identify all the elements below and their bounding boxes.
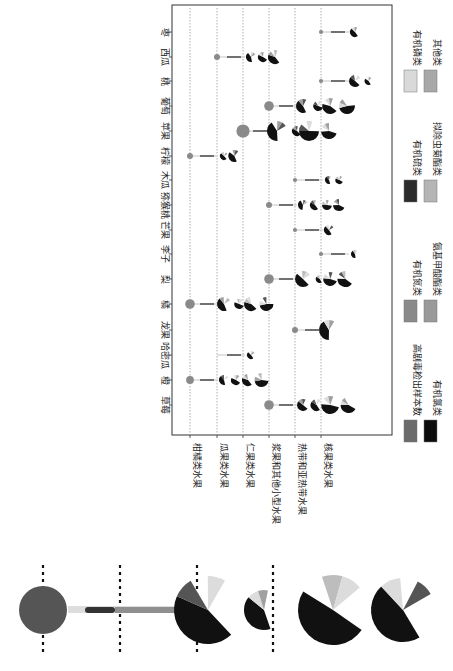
fruit-label: 葡萄 [160,97,171,115]
fruit-label: 梨 [160,275,171,284]
pie-marker [219,375,228,385]
fruit-label: 芒果 [160,221,171,239]
data-row [292,320,334,340]
pie-slice [224,298,230,304]
sample-count-dot [266,202,272,208]
legend-item: 其他类 [424,39,443,92]
data-row [214,50,279,64]
fruit-label: 猕猴桃 [160,192,171,219]
sample-count-dot [319,30,323,34]
category-label: 浆果和其他小型水果 [271,443,282,524]
chart-canvas: 柑橘类水果瓜果类水果仁果类水果浆果和其他小型水果热带和亚热带水果核果类水果草莓橙… [0,0,453,671]
legend-swatch [404,180,417,202]
pie-slice [313,104,323,111]
pie-marker [246,52,255,62]
pie-marker [231,375,240,385]
pie-slice [298,201,303,210]
inset-stem-grey [115,607,175,613]
legend-item: 拟除虫菊酯类 [424,122,443,202]
pie-marker [299,121,319,141]
pie-slice [224,376,228,380]
data-row [319,75,371,87]
data-row [187,150,238,162]
pie-slice [321,404,339,414]
fruit-label: 橘 [160,300,170,309]
category-label: 核果类水果 [323,443,334,488]
pie-marker [247,351,254,359]
fruit-label: 西瓜 [160,48,170,66]
pie-marker [335,176,342,184]
pie-slice [341,405,356,413]
fruit-label: 哈密瓜 [160,342,171,369]
legend-item: 有机氯类 [424,380,443,442]
pie-marker [310,200,318,210]
pie-marker [321,123,337,139]
legend-label: 其他类 [432,39,443,66]
pie-marker [341,398,356,413]
pie-slice [274,50,277,57]
pie-marker [337,271,351,287]
pie-slice [321,131,337,139]
pie-marker [365,77,372,85]
pie-marker [234,299,244,309]
pie-slice [322,202,327,205]
sample-count-dot [293,178,297,182]
pie-marker [322,98,336,114]
fruit-label: 枣 [160,28,170,37]
legend-label: 有机氮类 [412,260,423,296]
pie-marker [350,27,358,37]
pie-slice [403,582,431,610]
legend-label: 氨基甲酸酯类 [432,242,443,296]
pie-marker [323,272,337,286]
plot-frame [172,5,392,435]
legend-item: 有机硫类 [404,140,423,202]
pie-marker [313,101,323,111]
data-row [319,250,357,258]
pie-marker [244,297,256,311]
data-row [264,396,355,414]
pie-slice [355,76,360,81]
pie-marker [297,399,308,411]
category-label: 仁果类水果 [245,443,256,488]
pie-slice [333,205,344,211]
pie-marker [255,373,269,387]
pie-slice [329,226,333,230]
sample-count-dot [214,54,220,60]
pie-slice [335,178,342,184]
pie-marker [349,75,360,87]
pie-slice [322,205,332,210]
inset-enlarged-row [19,565,431,655]
pie-marker [319,320,334,340]
pie-slice [329,320,334,330]
pie-marker [242,374,252,386]
pie-marker [324,225,333,235]
pie-marker [220,152,227,160]
fruit-label: 柠檬 [160,147,171,165]
data-row [236,121,336,141]
pie-slice [255,380,269,387]
inset-pie-marker [298,575,362,645]
pie-marker [325,176,331,184]
sample-count-dot [264,101,274,111]
sample-count-dot [186,376,194,384]
legend-swatch [424,300,437,322]
fruit-label: 李子 [160,245,171,263]
legend-item: 有机氮类 [404,260,423,322]
category-label: 瓜果类水果 [219,443,230,488]
main-plot: 柑橘类水果瓜果类水果仁果类水果浆果和其他小型水果热带和亚热带水果核果类水果草莓橙… [160,5,393,524]
data-row [293,225,333,235]
sample-count-dot [292,327,298,333]
sample-count-dot [264,400,274,410]
sample-count-dot [319,79,323,83]
pie-slice [326,200,329,205]
data-row [217,351,254,359]
pie-slice [365,79,371,85]
fruit-label: 草莓 [160,396,171,414]
fruit-label: 橙 [160,376,171,385]
pie-marker [322,200,332,210]
data-row [266,199,344,211]
pie-slice [224,152,227,156]
data-row [293,176,343,184]
legend-swatch [404,420,417,442]
pie-slice [303,99,307,106]
